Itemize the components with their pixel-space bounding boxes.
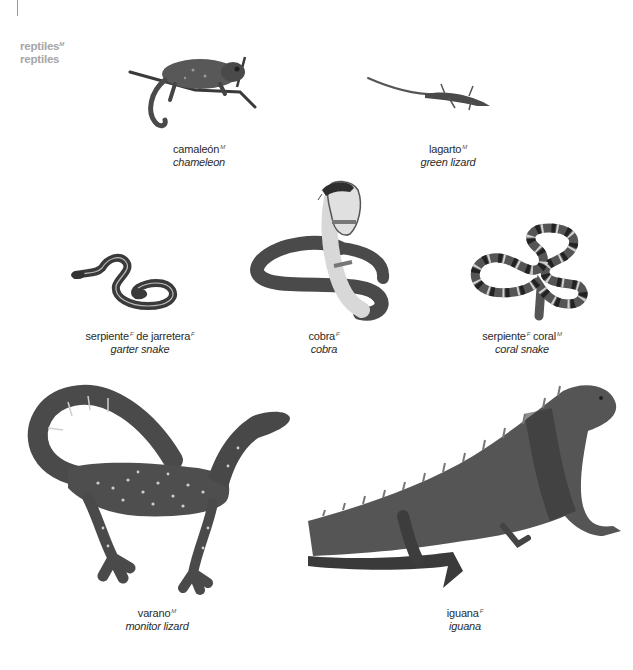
gender-marker: F <box>130 331 133 337</box>
term-en: iguana <box>447 620 483 633</box>
gender-marker: M <box>462 144 467 150</box>
term-es: camaleón <box>173 143 219 155</box>
term-es: cobra <box>309 330 336 342</box>
term-es-part: coral <box>533 330 556 342</box>
iguana-illustration <box>303 376 623 591</box>
gender-marker: M <box>171 608 176 614</box>
term-es-part: serpiente <box>85 330 128 342</box>
caption-chameleon: camaleónM chameleon <box>173 141 225 169</box>
term-en: chameleon <box>173 156 225 169</box>
caption-garter-snake: serpienteF de jarreteraF garter snake <box>85 328 194 356</box>
term-en: cobra <box>309 343 340 356</box>
coral-snake-illustration <box>465 224 590 319</box>
gender-marker: M <box>557 331 562 337</box>
chameleon-illustration <box>125 52 265 132</box>
page-margin-rule <box>17 0 18 16</box>
term-es-part: de jarretera <box>136 330 190 342</box>
monitor-lizard-illustration <box>28 388 293 593</box>
term-es-part: serpiente <box>482 330 525 342</box>
term-es: varano <box>138 607 170 619</box>
caption-iguana: iguanaF iguana <box>447 605 483 633</box>
gender-marker: F <box>336 331 339 337</box>
term-en: garter snake <box>85 343 194 356</box>
green-lizard-illustration <box>365 72 495 112</box>
gender-marker: F <box>191 331 194 337</box>
term-es: iguana <box>447 607 479 619</box>
caption-monitor-lizard: varanoM monitor lizard <box>125 605 188 633</box>
gender-marker: M <box>220 144 225 150</box>
gender-marker: M <box>59 41 64 47</box>
caption-cobra: cobraF cobra <box>309 328 340 356</box>
term-en: monitor lizard <box>125 620 188 633</box>
cobra-illustration <box>250 178 395 320</box>
section-title: reptilesM reptiles <box>20 38 64 66</box>
term-en: green lizard <box>420 156 475 169</box>
section-title-es: reptiles <box>20 40 59 52</box>
term-es: lagarto <box>429 143 461 155</box>
term-en: coral snake <box>482 343 561 356</box>
caption-green-lizard: lagartoM green lizard <box>420 141 475 169</box>
section-title-en: reptiles <box>20 53 64 66</box>
garter-snake-illustration <box>68 248 183 313</box>
caption-coral-snake: serpienteF coralM coral snake <box>482 328 561 356</box>
gender-marker: F <box>480 608 483 614</box>
gender-marker: F <box>527 331 530 337</box>
